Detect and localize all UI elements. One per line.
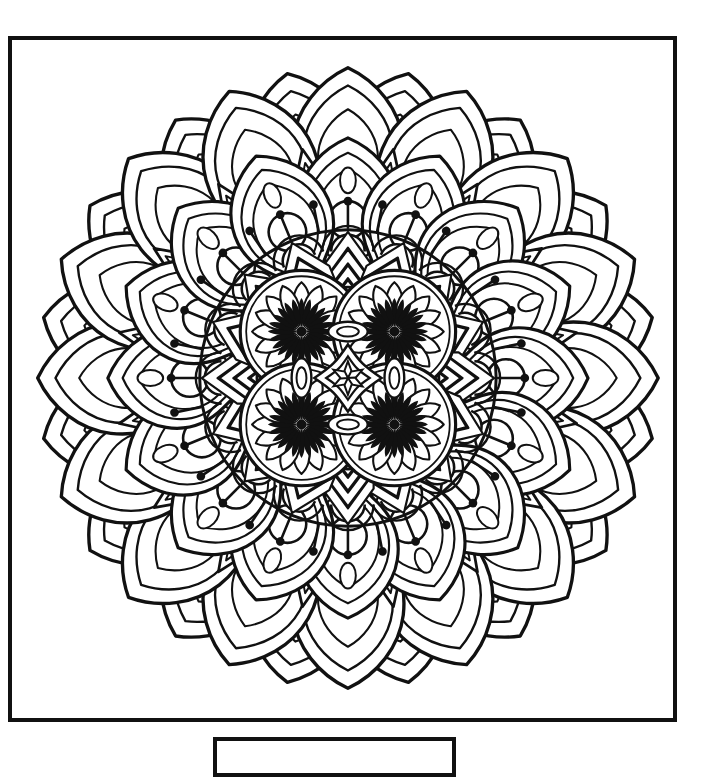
mandala-geometry (33, 63, 663, 693)
artwork-frame (8, 36, 677, 722)
mandala-illustration (12, 40, 673, 718)
caption-box (213, 737, 456, 777)
